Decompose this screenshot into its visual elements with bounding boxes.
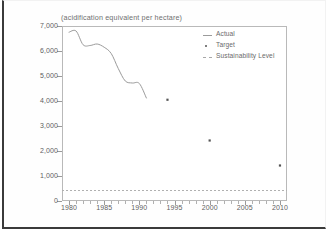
y-tick-label: 3,000 [40, 122, 58, 129]
y-tick-label: 2,000 [40, 147, 58, 154]
y-tick-label: 7,000 [40, 22, 58, 29]
target-points-series [166, 99, 281, 167]
x-tick-label: 1985 [96, 204, 112, 211]
x-tick-minor [118, 201, 119, 204]
legend-label-target: Target [216, 41, 235, 48]
y-tick-label: 1,000 [40, 172, 58, 179]
y-tick-label: 5,000 [40, 72, 58, 79]
y-tick-label: 6,000 [40, 47, 58, 54]
x-tick-minor [160, 201, 161, 204]
x-tick-label: 2005 [237, 204, 253, 211]
x-tick-label: 2000 [202, 204, 218, 211]
x-tick-minor [266, 201, 267, 204]
target-data-point [166, 99, 168, 101]
y-tick-label: 0 [54, 197, 58, 204]
legend-label-sustainability-level: Sustainability Level [216, 52, 274, 59]
x-tick-minor [90, 201, 91, 204]
chart-figure: (acidification equivalent per hectare) 0… [0, 0, 330, 233]
legend-item-target: Target [203, 41, 299, 51]
legend-label-actual: Actual [216, 30, 235, 37]
x-tick-minor [224, 201, 225, 204]
x-tick-minor [231, 201, 232, 204]
x-tick-minor [259, 201, 260, 204]
x-tick-label: 1995 [167, 204, 183, 211]
x-tick-label: 2010 [272, 204, 288, 211]
screenshot-page: (acidification equivalent per hectare) 0… [0, 0, 330, 233]
legend-item-sustainability-level: Sustainability Level [203, 52, 299, 62]
legend-line-swatch-icon [203, 35, 212, 36]
x-tick-minor [83, 201, 84, 204]
chart-title: (acidification equivalent per hectare) [61, 13, 182, 22]
chart-legend: Actual Target Sustainability Level [203, 30, 299, 63]
x-tick-minor [125, 201, 126, 204]
target-data-point [279, 164, 281, 166]
x-tick-minor [196, 201, 197, 204]
y-tick-label: 4,000 [40, 97, 58, 104]
x-tick-label: 1980 [61, 204, 77, 211]
legend-dot-swatch-icon [205, 45, 207, 47]
legend-item-actual: Actual [203, 30, 299, 40]
x-tick-minor [153, 201, 154, 204]
actual-line-series [69, 30, 146, 98]
legend-dashed-swatch-icon [203, 57, 212, 58]
x-tick-minor [189, 201, 190, 204]
target-data-point [209, 139, 211, 141]
x-tick-label: 1990 [131, 204, 147, 211]
